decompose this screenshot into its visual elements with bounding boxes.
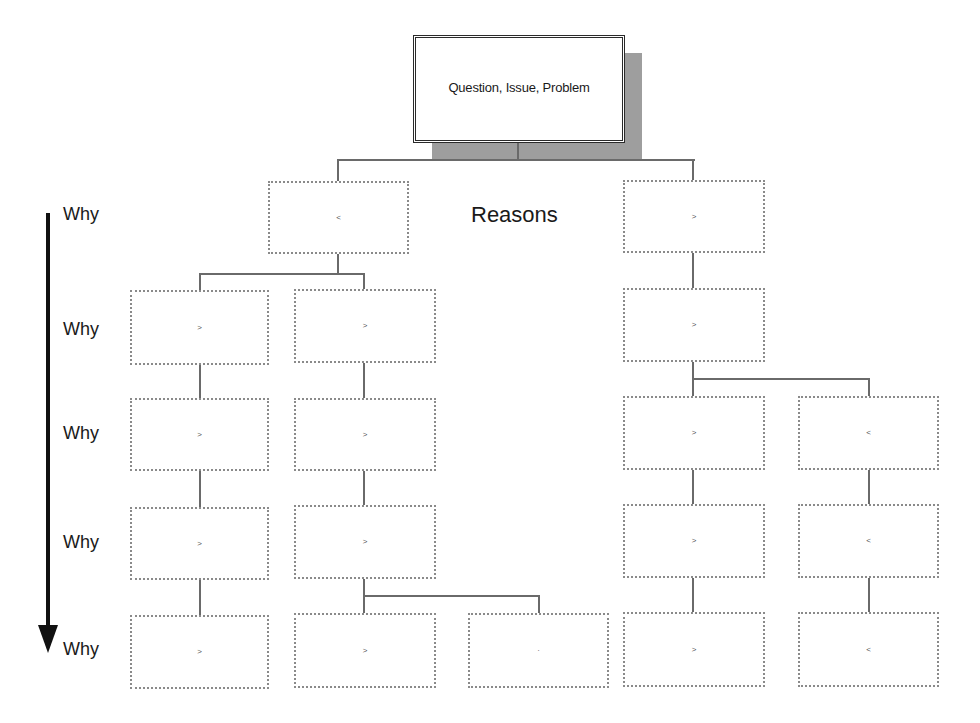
why-box-b3[interactable]: ˃ — [294, 398, 436, 471]
placeholder-mark: ˃ — [363, 322, 368, 330]
why-box-d2[interactable]: ˃ — [623, 288, 765, 362]
why-box-d3[interactable]: ˃ — [623, 396, 765, 470]
why-label-5: Why — [63, 639, 99, 660]
connector — [868, 469, 870, 505]
connector — [199, 273, 365, 275]
why-box-a3[interactable]: ˃ — [130, 398, 269, 471]
connector — [337, 159, 695, 161]
why-label-1: Why — [63, 204, 99, 225]
connector — [199, 470, 201, 507]
connector — [199, 579, 201, 615]
placeholder-mark: ˃ — [197, 540, 202, 548]
connector — [868, 577, 870, 613]
why-box-e4[interactable]: ˂ — [798, 504, 939, 578]
reasons-label: Reasons — [471, 202, 558, 228]
why-box-e5[interactable]: ˂ — [798, 612, 939, 687]
placeholder-mark: ˂ — [866, 646, 871, 654]
placeholder-mark: ˂ — [336, 214, 341, 222]
placeholder-mark: ˃ — [197, 431, 202, 439]
placeholder-mark: ˃ — [692, 321, 697, 329]
root-box[interactable]: Question, Issue, Problem — [413, 35, 625, 143]
why-box-d5[interactable]: ˃ — [623, 612, 765, 687]
placeholder-mark: ˂ — [866, 537, 871, 545]
connector — [692, 469, 694, 505]
down-arrow-icon — [38, 625, 58, 653]
why-box-c5[interactable]: · — [468, 613, 609, 688]
placeholder-mark: ˃ — [692, 646, 697, 654]
connector — [199, 273, 201, 290]
placeholder-mark: ˃ — [363, 431, 368, 439]
why-box-a4[interactable]: ˃ — [130, 507, 269, 580]
connector — [538, 595, 540, 614]
placeholder-mark: ˃ — [692, 213, 697, 221]
connector — [363, 470, 365, 507]
why-label-4: Why — [63, 532, 99, 553]
why-box-b4[interactable]: ˃ — [294, 505, 436, 579]
connector — [199, 364, 201, 398]
root-label: Question, Issue, Problem — [448, 80, 589, 95]
reason-box-left[interactable]: ˂ — [268, 181, 409, 254]
connector — [692, 159, 694, 181]
why-box-b5[interactable]: ˃ — [294, 613, 436, 688]
connector — [868, 378, 870, 397]
placeholder-mark: ˃ — [197, 648, 202, 656]
connector — [337, 159, 339, 181]
reason-box-right[interactable]: ˃ — [623, 180, 765, 253]
why-box-d4[interactable]: ˃ — [623, 504, 765, 578]
placeholder-mark: ˃ — [692, 537, 697, 545]
connector — [363, 273, 365, 290]
why-label-2: Why — [63, 319, 99, 340]
placeholder-mark: ˂ — [866, 429, 871, 437]
connector — [363, 595, 540, 597]
placeholder-mark: ˃ — [197, 324, 202, 332]
connector — [517, 143, 519, 160]
placeholder-mark: · — [537, 647, 540, 655]
why-box-a2[interactable]: ˃ — [130, 290, 269, 365]
why-box-b2[interactable]: ˃ — [294, 289, 436, 363]
placeholder-mark: ˃ — [363, 647, 368, 655]
why-box-a5[interactable]: ˃ — [130, 615, 269, 689]
placeholder-mark: ˃ — [363, 538, 368, 546]
connector — [363, 362, 365, 398]
placeholder-mark: ˃ — [692, 429, 697, 437]
why-arrow-shaft — [46, 213, 50, 627]
connector — [692, 252, 694, 288]
why-box-e3[interactable]: ˂ — [798, 396, 939, 470]
connector — [692, 577, 694, 613]
connector — [337, 253, 339, 275]
connector — [692, 378, 870, 380]
why-label-3: Why — [63, 423, 99, 444]
